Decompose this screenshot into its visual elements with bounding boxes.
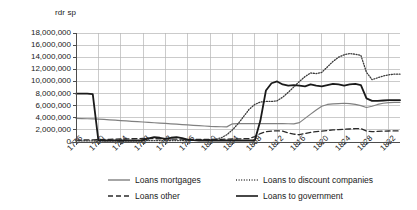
legend-line-icon — [236, 191, 258, 201]
legend-item-label: Loans other — [135, 191, 180, 201]
legend-item-label: Loans to government — [263, 191, 343, 201]
grid-lines — [76, 33, 400, 142]
legend-item-loans-to-discount-companies[interactable]: Loans to discount companies — [236, 172, 408, 188]
legend-line-icon — [108, 191, 130, 201]
legend-line-icon — [108, 175, 130, 185]
series-line-loans-to-government — [76, 81, 400, 140]
series-lines — [76, 54, 400, 141]
plot-frame — [73, 33, 400, 145]
legend-item-loans-to-government[interactable]: Loans to government — [236, 188, 408, 204]
chart-legend: Loans mortgagesLoans to discount compani… — [108, 172, 408, 204]
series-line-loans-other — [76, 129, 400, 141]
series-line-loans-mortgages — [76, 102, 400, 127]
legend-item-label: Loans to discount companies — [263, 175, 373, 185]
legend-item-loans-other[interactable]: Loans other — [108, 188, 236, 204]
legend-line-icon — [236, 175, 258, 185]
legend-item-loans-mortgages[interactable]: Loans mortgages — [108, 172, 236, 188]
line-chart: rdr sp 18,000,00016,000,00014,000,00012,… — [0, 0, 417, 210]
series-line-loans-to-discount-companies — [76, 54, 400, 141]
legend-item-label: Loans mortgages — [135, 175, 201, 185]
